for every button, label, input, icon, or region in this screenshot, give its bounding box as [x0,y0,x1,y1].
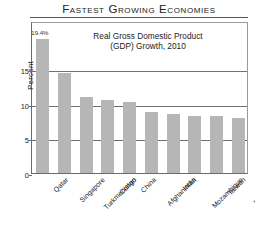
bar: 19.4% [36,39,49,173]
bar [188,116,201,173]
x-tick-label: Taiwan [227,176,247,196]
x-tick-label: India [181,176,197,192]
bar-value-label: 19.4% [31,30,48,36]
bar [210,116,223,173]
bar [101,100,114,173]
page-title: Fastest Growing Economies [30,3,248,16]
bar [80,97,93,173]
bar [145,112,158,173]
x-tick-label: China [139,176,157,194]
bar [232,118,245,173]
bar [167,114,180,173]
bar-chart-figure: Fastest Growing Economies Real Gross Dom… [0,0,255,229]
x-tick-label: Qatar [52,176,69,193]
x-axis-labels: QatarSingaporeTurkmenistanCongoChinaAfgh… [31,176,248,229]
x-tick-label: Congo [118,176,138,196]
y-tick-label: 10 [21,101,29,110]
plot-area: Percent 051015 19.4% [31,22,248,174]
x-tick-label: Uzbekistan [252,176,255,205]
title-divider [30,17,248,18]
title-block: Fastest Growing Economies [30,3,248,18]
y-tick-label: 15 [21,67,29,76]
x-tick-label: Singapore [78,176,106,204]
bar-series: 19.4% [32,23,247,173]
bar [123,102,136,173]
bar [58,73,71,173]
